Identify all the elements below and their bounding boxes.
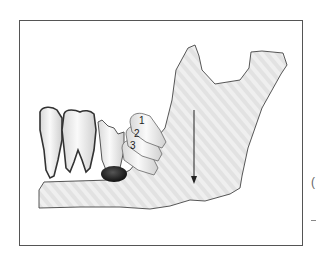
molar-tooth-2	[62, 110, 96, 172]
label-3: 3	[130, 141, 136, 151]
label-1: 1	[139, 116, 145, 126]
mandible-diagram	[0, 0, 317, 267]
cropped-edge-glyph: (	[311, 175, 315, 189]
decayed-tooth	[98, 120, 124, 170]
cropped-edge-mark	[311, 220, 316, 221]
label-2: 2	[134, 129, 140, 139]
molar-tooth-1	[40, 107, 62, 178]
dark-lesion	[101, 166, 127, 182]
